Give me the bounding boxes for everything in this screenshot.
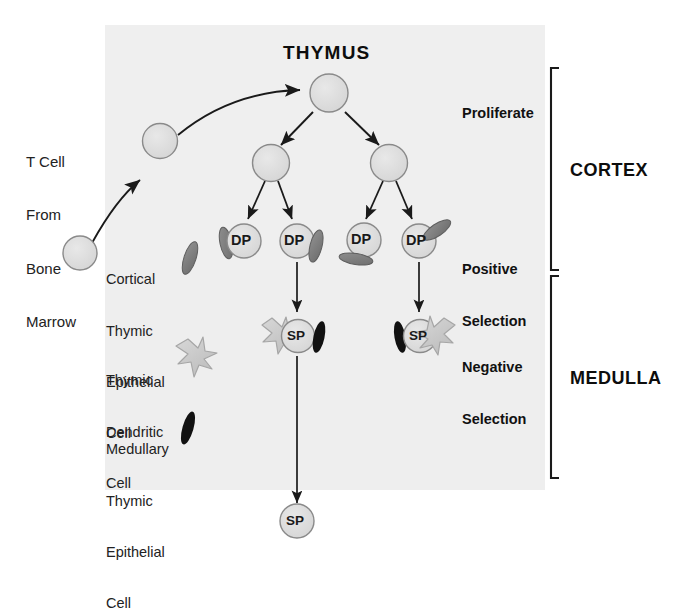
entry-line-4: Marrow bbox=[26, 313, 76, 331]
stage-label-proliferate: Proliferate bbox=[462, 105, 534, 122]
dp-label-3: DP bbox=[351, 231, 371, 248]
thymocyte-blast-top bbox=[310, 74, 348, 112]
legend-0-line-1: Cortical bbox=[106, 271, 165, 288]
legend-2-line-1: Medullary bbox=[106, 441, 169, 458]
legend-2-line-2: Thymic bbox=[106, 493, 169, 510]
sp-label-1: SP bbox=[287, 328, 305, 344]
legend-1-line-1: Thymic bbox=[106, 372, 163, 389]
stage-label-negative-selection: Negative Selection bbox=[462, 325, 526, 445]
legend-2-line-3: Epithelial bbox=[106, 544, 169, 561]
negative-selection-line-1: Negative bbox=[462, 359, 526, 376]
thymocyte-blast-right bbox=[371, 145, 408, 182]
entry-line-1: T Cell bbox=[26, 153, 76, 171]
page-title: THYMUS bbox=[283, 42, 370, 64]
legend-2-line-4: Cell bbox=[106, 595, 169, 612]
thymus-entry-t-cell bbox=[143, 124, 178, 159]
positive-selection-line-1: Positive bbox=[462, 261, 526, 278]
entry-line-3: Bone bbox=[26, 260, 76, 278]
thymocyte-blast-left bbox=[253, 145, 290, 182]
sp-label-2: SP bbox=[409, 328, 427, 344]
sp-label-output: SP bbox=[286, 513, 304, 529]
negative-selection-line-2: Selection bbox=[462, 411, 526, 428]
bone-marrow-entry-label: T Cell From Bone Marrow bbox=[26, 118, 76, 348]
dp-label-2: DP bbox=[284, 232, 304, 249]
dp-label-1: DP bbox=[231, 232, 251, 249]
region-label-medulla: MEDULLA bbox=[570, 368, 662, 389]
legend-item-medullary-thymic-epithelial-cell: Medullary Thymic Epithelial Cell bbox=[106, 407, 169, 612]
dp-label-4: DP bbox=[406, 232, 426, 249]
region-label-cortex: CORTEX bbox=[570, 160, 648, 181]
entry-line-2: From bbox=[26, 206, 76, 224]
